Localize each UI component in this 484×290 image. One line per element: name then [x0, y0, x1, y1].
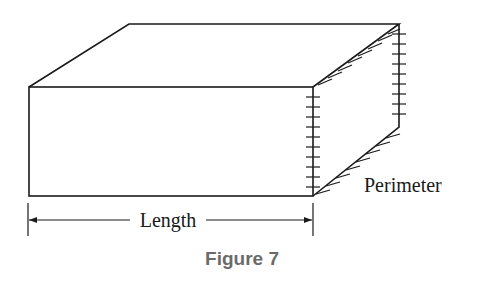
arrowhead-left-icon	[29, 217, 37, 223]
box-outline	[29, 24, 399, 196]
top-face	[29, 24, 399, 87]
front-face	[29, 87, 313, 196]
perimeter-hatch-marks	[306, 29, 406, 194]
box-diagram: Length Perimeter	[0, 0, 484, 290]
perimeter-label: Perimeter	[364, 174, 442, 196]
figure-caption: Figure 7	[0, 248, 484, 270]
length-label: Length	[140, 209, 197, 232]
arrowhead-right-icon	[304, 217, 312, 223]
right-face	[313, 24, 399, 196]
